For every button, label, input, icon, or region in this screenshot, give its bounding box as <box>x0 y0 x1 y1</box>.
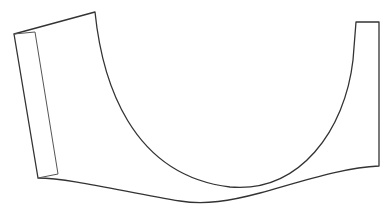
side-panel-strip <box>14 32 58 178</box>
pattern-drawing <box>0 0 392 211</box>
diagram-canvas <box>0 0 392 211</box>
outer-outline <box>14 12 379 203</box>
